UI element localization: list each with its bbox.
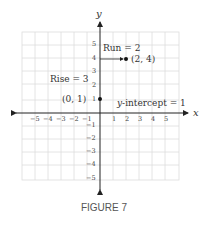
rise-label: Rise = 3 [50,74,89,84]
run-label: Run = 2 [103,43,140,53]
svg-text:−3: −3 [56,115,66,123]
y-tick-labels: 5 4 3 2 1 −1 −2 −3 −4 −5 [86,40,96,182]
y-axis-label: y [95,8,102,19]
point-0-1-label: (0, 1) [62,94,86,104]
svg-text:5: 5 [164,115,168,123]
svg-text:2: 2 [125,115,129,123]
svg-text:5: 5 [92,40,96,48]
point-0-1 [98,97,102,101]
svg-text:−2: −2 [86,134,96,142]
point-2-4-label: (2, 4) [131,54,155,64]
svg-text:−5: −5 [30,115,40,123]
svg-text:1: 1 [92,95,96,103]
point-2-4 [124,57,128,61]
svg-text:2: 2 [92,81,96,89]
svg-text:−5: −5 [86,174,96,182]
svg-text:−3: −3 [86,147,96,155]
svg-text:4: 4 [151,115,155,123]
svg-text:3: 3 [92,67,96,75]
x-axis-label: x [193,107,199,118]
svg-text:−4: −4 [43,115,53,123]
y-intercept-label: y-intercept = 1 [116,98,186,108]
svg-text:−2: −2 [69,115,79,123]
svg-text:1: 1 [112,115,116,123]
svg-text:−1: −1 [86,121,96,129]
coordinate-plane: x y −5 −4 −3 −2 −1 1 2 3 4 5 5 4 3 2 1 −… [0,0,208,228]
x-tick-labels: −5 −4 −3 −2 −1 1 2 3 4 5 [30,115,168,123]
figure-caption: FIGURE 7 [81,202,128,213]
svg-text:4: 4 [92,54,96,62]
svg-text:3: 3 [138,115,142,123]
svg-text:−4: −4 [86,160,96,168]
